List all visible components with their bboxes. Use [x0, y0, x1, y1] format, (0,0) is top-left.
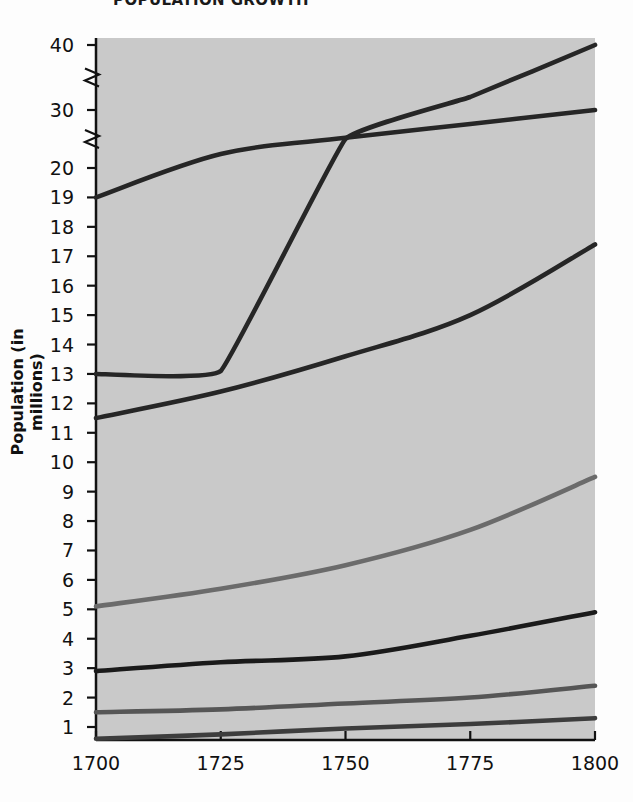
plot-background — [96, 38, 595, 740]
chart-plot-area — [0, 0, 633, 802]
chart-page: POPULATION GROWTH Population (in million… — [0, 0, 633, 802]
